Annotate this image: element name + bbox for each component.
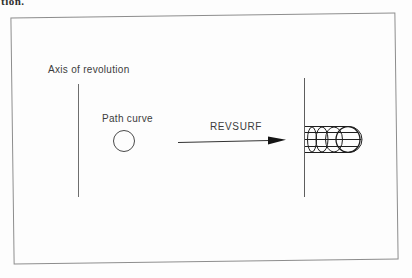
revsurf-arrow-icon <box>176 133 288 148</box>
revolved-surface-wireframe <box>303 123 367 156</box>
path-curve-circle <box>113 130 135 152</box>
axis-of-revolution-label: Axis of revolution <box>48 64 130 75</box>
axis-of-revolution-line-left <box>78 84 79 197</box>
page-text-fragment: tion. <box>1 0 25 7</box>
revsurf-command-label: REVSURF <box>210 121 262 132</box>
path-curve-label: Path curve <box>102 113 153 124</box>
scanned-page: { "page": { "top_text_fragment": "tion."… <box>0 0 412 278</box>
